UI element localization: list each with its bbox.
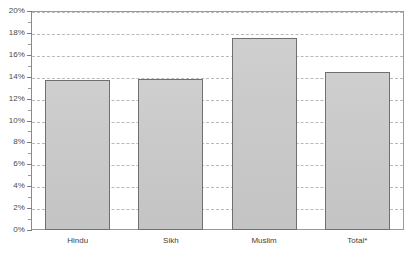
y-axis-label-16: 16% (9, 51, 25, 59)
x-axis-label-sikh: Sikh (124, 237, 217, 245)
y-axis-label-8: 8% (13, 138, 25, 146)
x-axis-label-total: Total* (311, 237, 404, 245)
bar-total (325, 72, 390, 230)
bar-sikh (138, 79, 203, 230)
y-axis-label-14: 14% (9, 73, 25, 81)
y-axis-label-6: 6% (13, 160, 25, 168)
y-axis-label-4: 4% (13, 182, 25, 190)
bar-hindu (45, 80, 110, 230)
y-axis-label-0: 0% (13, 226, 25, 234)
x-axis-label-hindu: Hindu (31, 237, 124, 245)
x-axis-label-muslim: Muslim (218, 237, 311, 245)
y-axis-label-20: 20% (9, 7, 25, 15)
y-axis-label-18: 18% (9, 29, 25, 37)
bar-chart: 0%2%4%6%8%10%12%14%16%18%20% HinduSikhMu… (0, 0, 414, 258)
bar-muslim (232, 38, 297, 230)
y-axis-label-10: 10% (9, 117, 25, 125)
bars-group (31, 11, 404, 230)
y-axis-label-2: 2% (13, 204, 25, 212)
y-tick-0 (27, 230, 32, 231)
y-axis-label-12: 12% (9, 95, 25, 103)
